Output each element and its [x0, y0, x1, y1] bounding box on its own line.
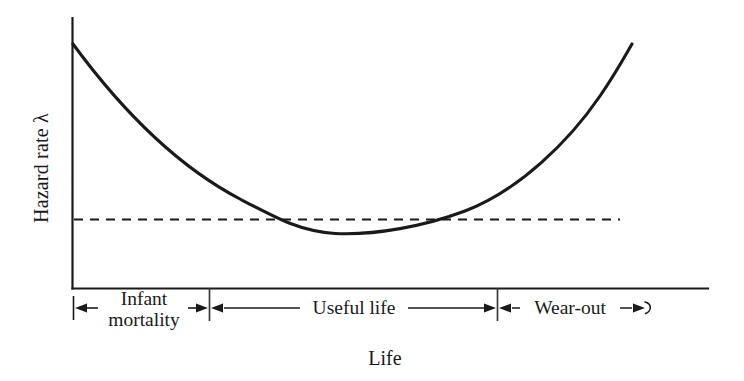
- useful-arrowhead-left: [211, 304, 223, 313]
- segment-label-useful-life: Useful life: [300, 297, 408, 318]
- infant-arrowhead-left: [75, 304, 87, 313]
- segment-label-infant-mortality: Infant mortality: [96, 288, 192, 330]
- hazard-rate-curve: [73, 44, 632, 234]
- segment-label-wear-out: Wear-out: [520, 297, 620, 318]
- y-axis-label: Hazard rate λ: [30, 53, 53, 283]
- segment-label-infant-line1: Infant: [121, 288, 168, 309]
- wearout-arrowhead-left: [499, 304, 511, 313]
- segment-label-infant-line2: mortality: [96, 309, 192, 330]
- x-axis-label: Life: [330, 347, 440, 370]
- bathtub-curve-figure: Hazard rate λ Life Infant mortality Usef…: [0, 0, 744, 381]
- infant-arrowhead-right: [196, 304, 208, 313]
- wearout-arrowhead-right: [633, 304, 645, 313]
- wearout-open-curl: [645, 302, 650, 314]
- useful-arrowhead-right: [484, 304, 496, 313]
